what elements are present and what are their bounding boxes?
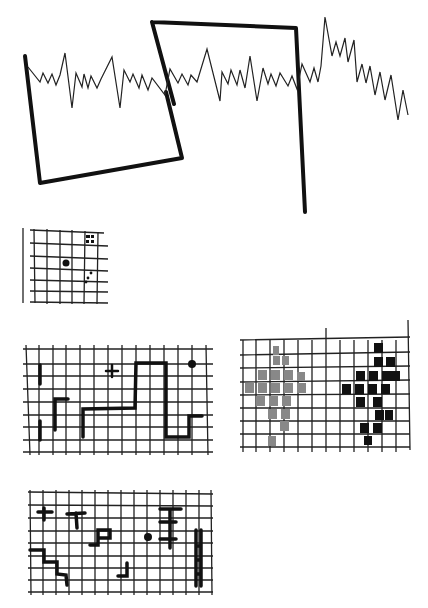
grid-shaded xyxy=(240,320,410,452)
zigzag-line xyxy=(28,17,408,120)
grid-path xyxy=(23,345,213,455)
grid-symbols xyxy=(28,490,213,595)
zigzag-panel xyxy=(25,17,408,212)
small-grid xyxy=(23,228,108,304)
tall-rectangle xyxy=(152,22,305,212)
sketch-canvas xyxy=(0,0,428,608)
